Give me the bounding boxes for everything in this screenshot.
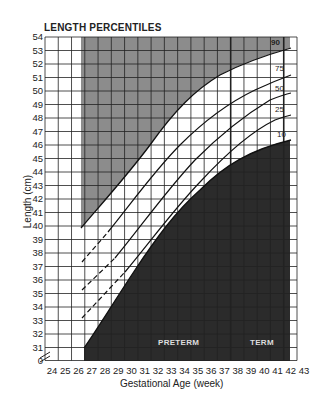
y-tick-label: 37: [23, 262, 43, 272]
y-tick-label: 51: [23, 73, 43, 83]
y-tick-label: 33: [23, 316, 43, 326]
x-tick-label: 42: [284, 365, 298, 376]
y-tick-label: 46: [23, 140, 43, 150]
x-tick-label: 33: [164, 365, 178, 376]
x-tick-label: 25: [58, 365, 72, 376]
x-tick-label: 35: [191, 365, 205, 376]
term-label: TERM: [250, 338, 274, 347]
y-tick-label: 0: [23, 356, 43, 366]
percentile-label-50: 50: [275, 84, 284, 93]
curve-75-dashed: [82, 232, 108, 262]
x-tick-label: 28: [98, 365, 112, 376]
y-tick-label: 45: [23, 154, 43, 164]
x-tick-label: 30: [125, 365, 139, 376]
y-tick-label: 38: [23, 248, 43, 258]
y-tick-label: 31: [23, 343, 43, 353]
x-tick-label: 27: [85, 365, 99, 376]
x-tick-label: 39: [244, 365, 258, 376]
y-tick-label: 47: [23, 127, 43, 137]
curve-50-dashed: [82, 258, 115, 290]
y-tick-label: 54: [23, 32, 43, 42]
x-tick-label: 37: [217, 365, 231, 376]
percentile-label-25: 25: [275, 105, 284, 114]
x-tick-label: 29: [111, 365, 125, 376]
y-tick-label: 32: [23, 329, 43, 339]
y-tick-label: 48: [23, 113, 43, 123]
y-tick-label: 35: [23, 289, 43, 299]
preterm-label: PRETERM: [158, 338, 199, 347]
y-tick-label: 53: [23, 46, 43, 56]
percentile-label-90: 90: [271, 38, 280, 47]
x-tick-label: 41: [270, 365, 284, 376]
x-tick-label: 26: [72, 365, 86, 376]
x-tick-label: 40: [257, 365, 271, 376]
y-tick-label: 50: [23, 86, 43, 96]
y-axis-title: Length (cm): [22, 167, 33, 237]
x-tick-label: 43: [297, 365, 311, 376]
x-tick-label: 36: [204, 365, 218, 376]
x-tick-label: 24: [45, 365, 59, 376]
x-axis-title: Gestational Age (week): [120, 378, 223, 389]
y-tick-label: 52: [23, 59, 43, 69]
x-tick-label: 34: [178, 365, 192, 376]
y-tick-label: 34: [23, 302, 43, 312]
x-tick-label: 31: [138, 365, 152, 376]
x-tick-label: 32: [151, 365, 165, 376]
percentile-label-75: 75: [275, 64, 284, 73]
x-tick-label: 38: [231, 365, 245, 376]
y-tick-label: 49: [23, 100, 43, 110]
y-tick-label: 36: [23, 275, 43, 285]
percentile-label-10: 10: [277, 130, 286, 139]
